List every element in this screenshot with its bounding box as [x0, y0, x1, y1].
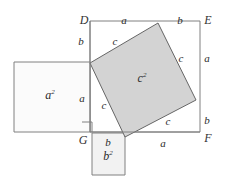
area-label-c-squared: c2: [138, 72, 147, 84]
pythagorean-diagram-canvas: D E F G a b b a a b b a c c c c a2 b2 c2: [0, 0, 225, 179]
side-label-right-upper-a: a: [204, 53, 210, 64]
side-label-bottom-b: b: [105, 137, 111, 148]
vertex-label-D: D: [80, 14, 89, 26]
side-label-bottom-a: a: [160, 138, 166, 149]
side-label-left-upper-b: b: [78, 36, 84, 47]
side-label-chord-c-bottom: c: [166, 116, 171, 127]
side-label-right-lower-b: b: [204, 115, 210, 126]
area-label-b-squared: b2: [103, 150, 113, 162]
vertex-label-G: G: [79, 134, 88, 146]
side-label-top-b: b: [177, 15, 183, 26]
side-label-chord-c-top: c: [113, 36, 118, 47]
side-label-left-lower-a: a: [79, 93, 85, 104]
area-label-c-squared-exponent: 2: [143, 71, 147, 79]
side-label-top-a: a: [121, 15, 127, 26]
side-label-chord-c-right: c: [179, 53, 184, 64]
area-label-a-squared-exponent: 2: [51, 88, 55, 96]
vertex-label-E: E: [204, 14, 211, 26]
vertex-label-F: F: [204, 132, 211, 144]
area-label-a-squared: a2: [45, 89, 55, 101]
area-label-b-squared-exponent: 2: [109, 149, 113, 157]
side-label-chord-c-left: c: [102, 100, 107, 111]
